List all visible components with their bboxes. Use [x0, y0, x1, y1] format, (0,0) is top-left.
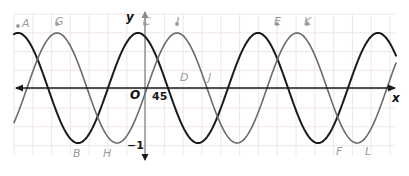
x-tick-45: 45	[152, 91, 167, 102]
graph-figure: AGCIEKBHFLDJ45−1xyO	[0, 0, 409, 176]
point-label-a: A	[22, 18, 30, 29]
marker-a	[16, 24, 20, 28]
point-label-h: H	[103, 148, 111, 159]
point-label-c: C	[143, 16, 151, 27]
point-label-j: J	[208, 72, 211, 83]
x-axis-label: x	[392, 93, 400, 104]
point-label-e: E	[274, 16, 281, 27]
origin-label: O	[130, 90, 140, 101]
point-label-g: G	[55, 16, 64, 27]
x-axis-arrow-left	[15, 85, 23, 92]
y-axis-arrow-down	[142, 154, 149, 161]
grid	[14, 14, 395, 155]
point-label-d: D	[180, 72, 188, 83]
point-label-l: L	[365, 146, 371, 157]
y-axis-label: y	[126, 12, 134, 23]
point-label-f: F	[336, 146, 342, 157]
point-label-b: B	[73, 148, 81, 159]
point-label-i: I	[176, 16, 179, 27]
y-value-minus-one: −1	[127, 140, 144, 151]
point-label-k: K	[304, 16, 311, 27]
